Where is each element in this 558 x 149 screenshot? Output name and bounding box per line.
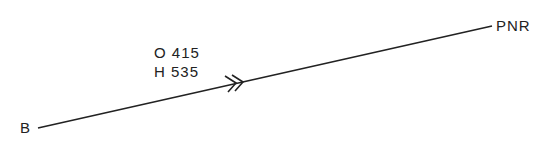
annotation-line-2: H 535: [154, 63, 199, 80]
track-line-canvas: [0, 0, 558, 149]
start-point-label: B: [20, 119, 31, 136]
annotation-line-1: O 415: [154, 44, 200, 61]
end-point-label: PNR: [496, 17, 531, 34]
track-diagram: B PNR O 415 H 535: [0, 0, 558, 149]
track-line: [38, 26, 492, 128]
